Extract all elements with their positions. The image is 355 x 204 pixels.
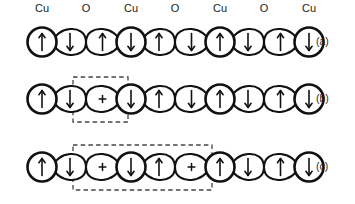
copper-site-1 (28, 153, 57, 182)
row-label-a: (a) (316, 35, 342, 47)
row-label-b: (b) (316, 92, 342, 104)
chain-row-b (28, 77, 324, 122)
copper-site-3 (206, 28, 235, 57)
copper-site-2 (117, 153, 146, 182)
oxygen-orbital-2 (143, 29, 208, 55)
copper-site-3 (206, 85, 235, 114)
copper-site-1 (28, 28, 57, 57)
row-label-c: (c) (316, 160, 342, 172)
oxygen-orbital-1 (54, 86, 119, 112)
oxygen-orbital-3 (232, 29, 297, 55)
oxygen-orbital-3 (232, 154, 297, 180)
oxygen-orbital-2 (143, 86, 208, 112)
copper-site-2 (117, 28, 146, 57)
cu-o-chain-figure: Cu O Cu O Cu O Cu (a) (b) (c) (0, 0, 355, 204)
copper-site-1 (28, 85, 57, 114)
chain-diagram-canvas (0, 0, 355, 204)
copper-site-2 (117, 85, 146, 114)
oxygen-orbital-2 (143, 154, 208, 180)
chain-row-c (28, 145, 324, 190)
oxygen-orbital-1 (54, 154, 119, 180)
copper-site-3 (206, 153, 235, 182)
chain-row-a (28, 28, 324, 57)
oxygen-orbital-1 (54, 29, 119, 55)
oxygen-orbital-3 (232, 86, 297, 112)
